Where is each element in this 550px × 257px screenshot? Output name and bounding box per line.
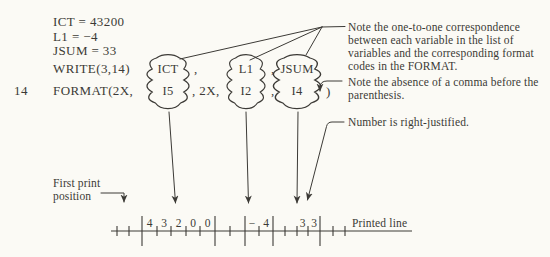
first-print-label-line2: position [53, 190, 91, 203]
printed-digit: 4 [263, 217, 269, 229]
printed-line-label: Printed line [352, 217, 407, 229]
arrow-ict-to-printed-value [169, 112, 176, 203]
first-print-label-line1: First print [53, 177, 101, 190]
printed-digit: 0 [205, 217, 211, 229]
fortran-format-diagram: ICT = 43200 L1 = −4 JSUM = 33 WRITE(3,14… [0, 0, 550, 257]
printed-digit: − [249, 217, 256, 229]
annotation1-line4: codes in the FORMAT. [348, 60, 457, 72]
code-write-keyword: WRITE(3,14) [53, 61, 130, 76]
write-comma-1: , [194, 61, 198, 76]
first-print-elbow-arrow [101, 193, 124, 202]
annotation1-line2: between each variable in the list of [348, 34, 514, 46]
code-line-ict: ICT = 43200 [53, 14, 124, 29]
code-line-l1: L1 = −4 [53, 29, 98, 44]
diagram-canvas: ICT = 43200 L1 = −4 JSUM = 33 WRITE(3,14… [0, 0, 550, 257]
fan-line-to-ict-blob [180, 27, 322, 59]
printed-digit: 3 [311, 217, 317, 229]
annotation3-line1: Number is right-justified. [348, 116, 469, 129]
format-code-i4: I4 [291, 84, 302, 98]
statement-number: 14 [14, 83, 28, 98]
annotation3-elbow-arrow [308, 122, 345, 200]
annotation1-leader-dash [322, 27, 345, 28]
fan-line-to-l1-blob [250, 27, 322, 60]
closing-paren: ) [326, 84, 331, 99]
printed-digit: 0 [190, 217, 196, 229]
annotation1-line1: Note the one-to-one correspondence [348, 21, 520, 34]
printed-digit: 2 [176, 217, 182, 229]
annotation2-line2: parenthesis. [348, 89, 404, 102]
annotation2-elbow-arrow [320, 81, 342, 91]
printed-digit: 3 [161, 217, 167, 229]
variable-l1: L1 [239, 62, 254, 76]
code-format-keyword: FORMAT(2X, [53, 83, 133, 98]
code-line-jsum: JSUM = 33 [53, 43, 117, 58]
format-code-i5: I5 [162, 84, 173, 98]
annotation1-line3: variables and the corresponding format [348, 47, 534, 60]
format-separator: , 2X, [192, 83, 220, 98]
printed-digit: 3 [300, 217, 306, 229]
printed-digit: 4 [147, 217, 153, 229]
annotation2-line1: Note the absence of a comma before the [348, 76, 539, 88]
variable-ict: ICT [157, 62, 178, 76]
arrow-jsum-to-printed-value [297, 112, 298, 203]
variable-jsum: JSUM [280, 62, 313, 76]
format-code-i2: I2 [240, 84, 251, 98]
arrow-l1-to-printed-value [246, 112, 249, 203]
